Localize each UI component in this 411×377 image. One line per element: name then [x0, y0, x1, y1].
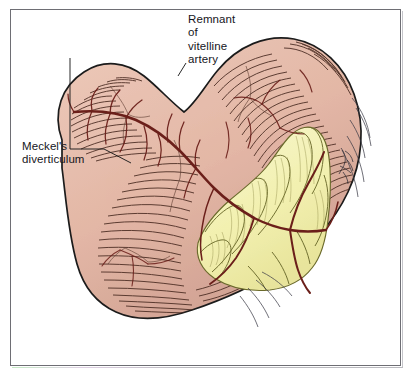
figure-root: Remnant of vitelline artery Meckel's div…	[0, 0, 411, 377]
label-meckels-diverticulum: Meckel's diverticulum	[22, 140, 85, 167]
label-remnant-of-vitelline-artery: Remnant of vitelline artery	[188, 13, 235, 67]
leader-line-vitelline	[178, 63, 186, 76]
